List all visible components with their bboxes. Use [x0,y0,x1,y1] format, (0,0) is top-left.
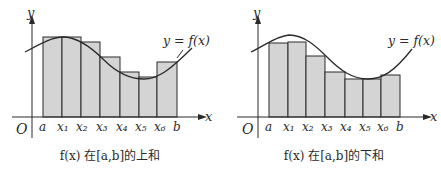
tick-x4: x₄ [116,120,128,134]
tick-x5: x₅ [135,120,147,134]
y-axis-label: y [252,5,261,20]
bar-5 [345,79,363,117]
x-tick-labels: a x₁ x₂ x₃ x₄ x₅ x₆ b [39,120,181,134]
bar-1 [43,37,62,117]
tick-x6: x₆ [154,120,166,134]
tick-x1: x₁ [57,120,69,134]
upper-sum-bars [43,37,177,117]
curve-label: y = f(x) [387,33,435,48]
curve-label: y = f(x) [162,33,210,48]
bar-1 [269,43,288,117]
lower-sum-diagram: y x O y = f(x) a x₁ x₂ x₃ x₄ x₅ x₆ b f(x… [237,5,438,163]
bar-7 [381,75,400,117]
tick-a: a [39,120,46,134]
origin-label: O [16,121,28,137]
x-axis-label: x [430,109,438,124]
origin-label: O [242,121,254,137]
bar-6 [139,77,157,117]
tick-x3: x₃ [321,120,333,134]
upper-sum-diagram: y x O y = f(x) a x₁ x₂ x₃ x₄ x₅ x₆ b f(x… [12,5,213,163]
bar-2 [62,37,81,117]
caption-lower-sum: f(x) 在[a,b]的下和 [284,148,384,163]
bar-4 [325,72,345,117]
tick-b: b [396,120,404,134]
tick-x4: x₄ [340,120,352,134]
tick-x5: x₅ [359,120,371,134]
caption-upper-sum: f(x) 在[a,b]的上和 [60,148,160,163]
tick-x6: x₆ [377,120,389,134]
tick-x1: x₁ [283,120,295,134]
riemann-sums-figure: y x O y = f(x) a x₁ x₂ x₃ x₄ x₅ x₆ b f(x… [0,0,441,169]
bar-3 [306,56,325,117]
lower-sum-bars [269,42,400,117]
tick-b: b [173,120,181,134]
tick-a: a [265,120,272,134]
bar-2 [288,42,306,117]
tick-x3: x₃ [96,120,108,134]
x-axis-label: x [205,109,213,124]
x-tick-labels: a x₁ x₂ x₃ x₄ x₅ x₆ b [265,120,404,134]
tick-x2: x₂ [302,120,314,134]
y-axis-label: y [26,5,35,20]
bar-6 [363,79,381,117]
tick-x2: x₂ [76,120,88,134]
